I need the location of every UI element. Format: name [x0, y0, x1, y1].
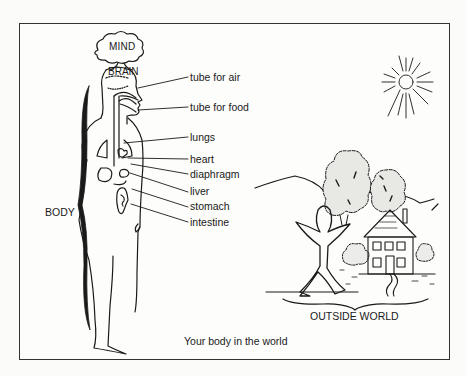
outside-world-label: OUTSIDE WORLD [310, 310, 399, 322]
brain-label: BRAIN [108, 66, 139, 77]
label-tube-for-air: tube for air [190, 71, 240, 83]
label-diaphragm: diaphragm [190, 168, 240, 180]
body-label: BODY [45, 206, 75, 218]
figure-caption: Your body in the world [184, 335, 288, 347]
sun-icon [382, 56, 433, 118]
mind-label: MIND [109, 41, 135, 52]
human-figure-icon [296, 206, 350, 296]
label-lungs: lungs [190, 131, 215, 143]
label-liver: liver [190, 185, 209, 197]
outside-world-brace [283, 299, 428, 310]
label-heart: heart [190, 153, 214, 165]
label-stomach: stomach [190, 200, 230, 212]
body-bracket [78, 86, 90, 330]
leader-lines [124, 77, 188, 222]
bush-icon [342, 244, 434, 266]
label-tube-for-food: tube for food [190, 101, 249, 113]
label-intestine: intestine [190, 216, 229, 228]
